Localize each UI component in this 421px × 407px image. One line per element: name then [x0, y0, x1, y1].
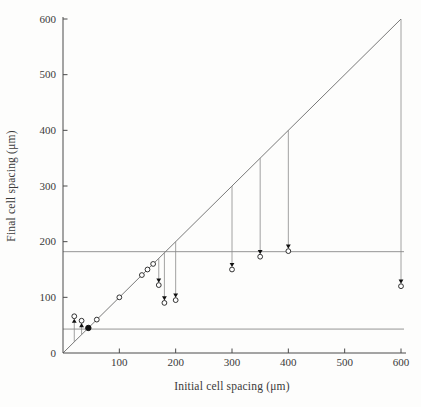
arrowhead-down — [286, 245, 291, 249]
data-point-stationary — [139, 273, 144, 278]
data-point-final — [162, 301, 167, 306]
chart-figure: 0100200300400500600100200300400500600 Fi… — [0, 0, 421, 407]
data-point-stationary — [94, 317, 99, 322]
data-point-fixed — [86, 325, 91, 330]
data-point-final — [286, 249, 291, 254]
y-tick-label: 200 — [40, 235, 57, 247]
y-tick-label: 300 — [40, 180, 57, 192]
data-point-final — [156, 283, 161, 288]
x-tick-label: 100 — [111, 356, 128, 368]
data-point-final — [79, 318, 84, 323]
data-point-final — [258, 254, 263, 259]
data-point-final — [173, 298, 178, 303]
x-axis-label: Initial cell spacing (μm) — [174, 380, 290, 392]
arrowhead-up — [72, 319, 77, 323]
chart-canvas: 0100200300400500600100200300400500600 — [0, 0, 421, 407]
y-tick-label: 100 — [40, 291, 57, 303]
y-tick-label: 600 — [40, 13, 57, 25]
arrowhead-down — [173, 294, 178, 298]
arrowhead-down — [156, 278, 161, 282]
data-point-stationary — [145, 267, 150, 272]
arrowhead-up — [79, 323, 84, 327]
y-tick-label: 500 — [40, 68, 57, 80]
data-point-stationary — [117, 295, 122, 300]
x-tick-label: 400 — [280, 356, 297, 368]
x-tick-label: 500 — [336, 356, 353, 368]
y-tick-label: 0 — [51, 347, 57, 359]
y-axis-label: Final cell spacing (μm) — [5, 130, 17, 241]
data-point-final — [399, 284, 404, 289]
arrowhead-down — [399, 280, 404, 284]
data-point-stationary — [151, 262, 156, 267]
arrowhead-down — [162, 296, 167, 300]
arrowhead-down — [230, 263, 235, 267]
data-point-final — [72, 314, 77, 319]
data-point-final — [230, 267, 235, 272]
x-tick-label: 300 — [224, 356, 241, 368]
x-tick-label: 200 — [167, 356, 184, 368]
y-tick-label: 400 — [40, 124, 57, 136]
x-tick-label: 600 — [393, 356, 410, 368]
arrowhead-down — [258, 250, 263, 254]
